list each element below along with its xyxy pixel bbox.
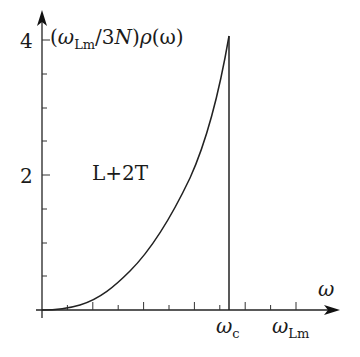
- y-tick-label-4: 4: [20, 29, 33, 53]
- x-ticks: [67, 302, 296, 310]
- chart-canvas: 4 2 (ωLm/3N)ρ(ω) L+2T ω ωc ωLm: [0, 0, 360, 357]
- curve-label: L+2T: [92, 161, 149, 185]
- x-axis-title: ω: [318, 277, 334, 301]
- y-tick-label-2: 2: [20, 164, 33, 188]
- y-axis-title: (ωLm/3N)ρ(ω): [50, 25, 184, 52]
- x-tick-label-omega-c: ωc: [216, 314, 240, 341]
- y-ticks: [42, 40, 50, 276]
- x-tick-label-omega-lm: ωLm: [272, 314, 309, 341]
